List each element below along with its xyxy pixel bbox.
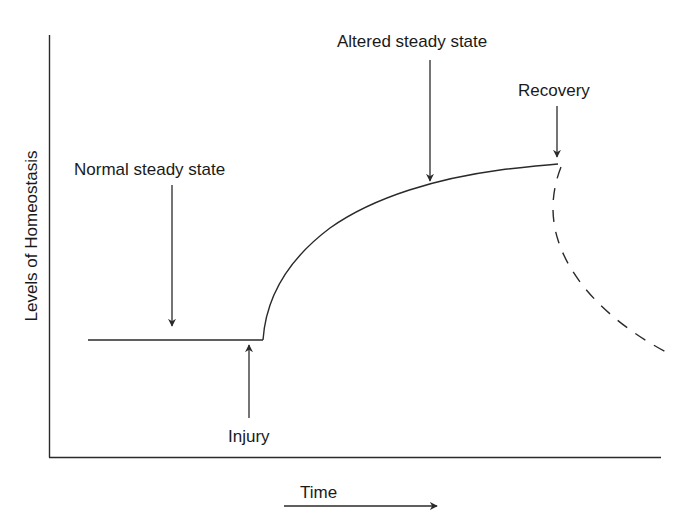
recovery-label: Recovery <box>518 82 590 99</box>
y-axis-label: Levels of Homeostasis <box>23 150 40 321</box>
altered-steady-state-curve <box>263 164 558 340</box>
x-axis-label: Time <box>300 484 337 501</box>
altered-steady-state-label: Altered steady state <box>337 33 487 50</box>
injury-label: Injury <box>228 428 270 445</box>
recovery-dashed-curve <box>553 167 666 352</box>
diagram-canvas <box>0 0 686 528</box>
normal-steady-state-label: Normal steady state <box>74 161 225 178</box>
homeostasis-diagram: Levels of Homeostasis Normal steady stat… <box>0 0 686 528</box>
